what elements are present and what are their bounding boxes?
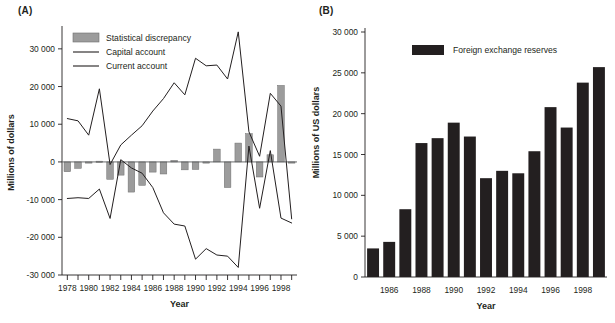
legend-label: Foreign exchange reserves	[453, 45, 557, 55]
panel-a-y-tick-label: 10 000	[29, 119, 55, 129]
panel-b-y-tick-label: 30 000	[332, 27, 358, 37]
panel-b-bar	[367, 248, 379, 277]
panel-b-x-tick-label: 1998	[573, 285, 592, 295]
panel-a-legend: Statistical discrepancyCapital accountCu…	[73, 33, 192, 71]
panel-a-x-tick-label: 1984	[122, 283, 141, 293]
panel-a-y-tick-label: 0	[50, 157, 55, 167]
panel-b-y-tick-label: 20 000	[332, 109, 358, 119]
panel-b-bar	[432, 138, 444, 277]
panel-b-bar	[480, 178, 492, 277]
panel-b-label: (B)	[319, 5, 333, 16]
panel-a-x-tick-label: 1992	[208, 283, 227, 293]
panel-b-bar	[512, 173, 524, 277]
panel-b-bar	[545, 107, 557, 277]
panel-a-y-tick-label: -10 000	[27, 195, 56, 205]
panel-a-y-tick-label: 20 000	[29, 82, 55, 92]
panel-b-bar	[415, 143, 427, 277]
panel-b-x-axis-title: Year	[476, 301, 496, 311]
panel-b-bar	[496, 171, 508, 277]
panel-a-y-tick-label: -30 000	[27, 270, 56, 280]
panel-a-line-current-account	[67, 32, 291, 219]
chart-panel-a: (A) 30 00020 00010 0000-10 000-20 000-30…	[0, 0, 307, 323]
panel-a-x-tick-label: 1978	[58, 283, 77, 293]
panel-b-x-tick-label: 1986	[380, 285, 399, 295]
panel-b-plot: 30 00025 00020 00015 00010 0005 00001986…	[307, 0, 615, 323]
panel-a-x-tick-label: 1986	[143, 283, 162, 293]
panel-b-bar	[399, 209, 411, 277]
panel-b-x-tick-label: 1992	[477, 285, 496, 295]
panel-b-y-tick-label: 15 000	[332, 150, 358, 160]
panel-a-bar	[235, 143, 242, 162]
chart-panel-b: (B) 30 00025 00020 00015 00010 0005 0000…	[307, 0, 615, 323]
panel-a-x-tick-label: 1980	[79, 283, 98, 293]
panel-a-x-tick-label: 1990	[186, 283, 205, 293]
panel-b-bar	[528, 151, 540, 277]
panel-a-bar	[182, 162, 189, 170]
panel-a-bar	[214, 149, 221, 162]
panel-a-y-tick-label: -20 000	[27, 232, 56, 242]
panel-b-x-tick-label: 1988	[412, 285, 431, 295]
legend-swatch-bar	[412, 45, 444, 55]
panel-b-x-tick-label: 1994	[509, 285, 528, 295]
panel-a-bar	[64, 162, 71, 172]
figure-root: (A) 30 00020 00010 0000-10 000-20 000-30…	[0, 0, 615, 323]
panel-a-y-axis-title: Millions of dollars	[6, 114, 16, 191]
legend-swatch-bar	[73, 33, 99, 42]
panel-b-legend: Foreign exchange reserves	[412, 45, 557, 55]
panel-a-x-tick-label: 1994	[229, 283, 248, 293]
panel-b-y-tick-label: 0	[353, 272, 358, 282]
panel-a-x-tick-label: 1988	[165, 283, 184, 293]
panel-a-x-axis-title: Year	[170, 299, 190, 309]
legend-label: Current account	[106, 61, 168, 71]
panel-a-x-tick-label: 1982	[101, 283, 120, 293]
panel-a-label: (A)	[18, 5, 32, 16]
panel-b-bar	[383, 242, 395, 277]
panel-b-bar	[561, 128, 573, 277]
panel-b-bar-series	[367, 67, 605, 277]
panel-b-bar	[577, 83, 589, 277]
panel-a-bar	[278, 85, 285, 162]
legend-label: Statistical discrepancy	[106, 33, 192, 43]
panel-b-y-tick-label: 5 000	[337, 231, 358, 241]
panel-b-y-tick-label: 25 000	[332, 68, 358, 78]
panel-b-bar	[593, 67, 605, 277]
panel-a-y-tick-label: 30 000	[29, 44, 55, 54]
panel-a-bar	[256, 162, 263, 177]
panel-b-bar	[448, 123, 460, 277]
panel-b-y-tick-label: 10 000	[332, 190, 358, 200]
panel-a-plot: 30 00020 00010 0000-10 000-20 000-30 000…	[0, 0, 307, 323]
panel-a-bar	[149, 162, 156, 172]
panel-a-x-tick-label: 1996	[250, 283, 269, 293]
panel-b-x-tick-label: 1996	[541, 285, 560, 295]
panel-a-x-tick-label: 1998	[272, 283, 291, 293]
panel-b-x-tick-label: 1990	[444, 285, 463, 295]
panel-b-bar	[464, 137, 476, 277]
legend-label: Capital account	[106, 47, 166, 57]
panel-a-bar	[224, 162, 231, 188]
panel-b-y-axis-title: Millions of US dollars	[311, 87, 321, 179]
panel-a-bar	[192, 162, 199, 170]
panel-a-bar	[160, 162, 167, 174]
panel-a-bar-series	[64, 85, 295, 192]
panel-a-bar	[75, 162, 82, 168]
